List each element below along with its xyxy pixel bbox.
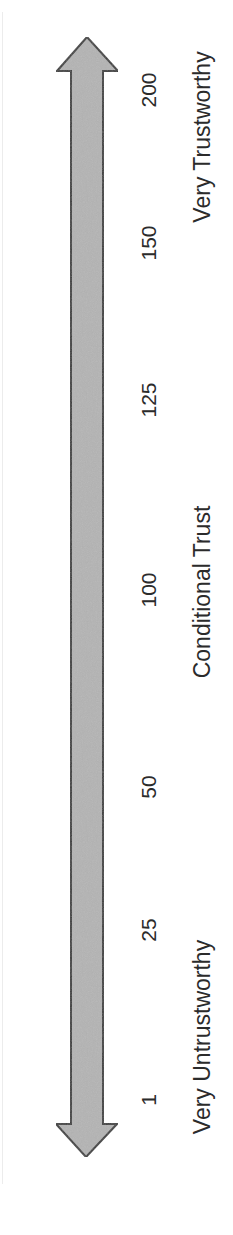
tick-label-100: 100 — [138, 572, 159, 607]
tick-label-50: 50 — [138, 775, 159, 798]
tick-label-125: 125 — [138, 382, 159, 417]
tick-label-25: 25 — [138, 918, 159, 941]
scale-arrow — [56, 37, 118, 1157]
anchor-label-very-untrustworthy: Very Untrustworthy — [191, 940, 214, 1134]
tick-label-1: 1 — [138, 1094, 159, 1106]
tick-label-150: 150 — [138, 225, 159, 260]
anchor-label-conditional-trust: Conditional Trust — [191, 506, 214, 679]
tick-label-200: 200 — [138, 72, 159, 107]
anchor-label-very-trustworthy: Very Trustworthy — [191, 51, 214, 222]
